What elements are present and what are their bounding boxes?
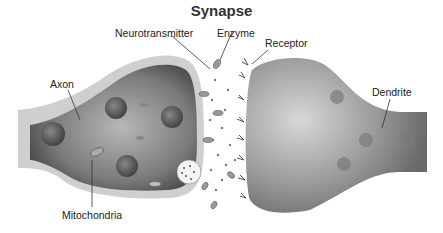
label-enzyme: Enzyme: [217, 27, 255, 39]
label-mitochondria: Mitochondria: [62, 209, 122, 221]
label-dendrite: Dendrite: [372, 86, 412, 98]
label-receptor: Receptor: [265, 37, 308, 49]
label-neurotransmitter: Neurotransmitter: [115, 27, 193, 39]
label-axon: Axon: [50, 78, 74, 90]
enzyme-molecules: [199, 58, 236, 210]
vesicle-releasing: [177, 160, 201, 184]
dendrite: [246, 58, 427, 213]
